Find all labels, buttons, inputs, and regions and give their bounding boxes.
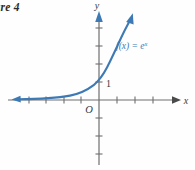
curve-arrow-left-icon bbox=[12, 96, 21, 103]
y-axis-label: y bbox=[94, 0, 100, 11]
exponential-function-graph: x y O 1 f(x) = ex bbox=[0, 0, 195, 170]
y-intercept-label: 1 bbox=[106, 78, 111, 89]
exponential-curve bbox=[18, 21, 130, 99]
origin-label: O bbox=[85, 104, 93, 115]
x-axis-label: x bbox=[183, 95, 189, 106]
curve-function-exponent: x bbox=[144, 40, 148, 47]
figure-container: ure 4 bbox=[0, 0, 195, 170]
x-axis-arrow-icon bbox=[172, 96, 181, 104]
y-axis-arrow-icon bbox=[95, 11, 103, 22]
curve-arrow-up-icon bbox=[126, 13, 133, 24]
curve-function-base: f(x) = e bbox=[116, 41, 145, 52]
curve-function-label: f(x) = ex bbox=[116, 40, 148, 53]
